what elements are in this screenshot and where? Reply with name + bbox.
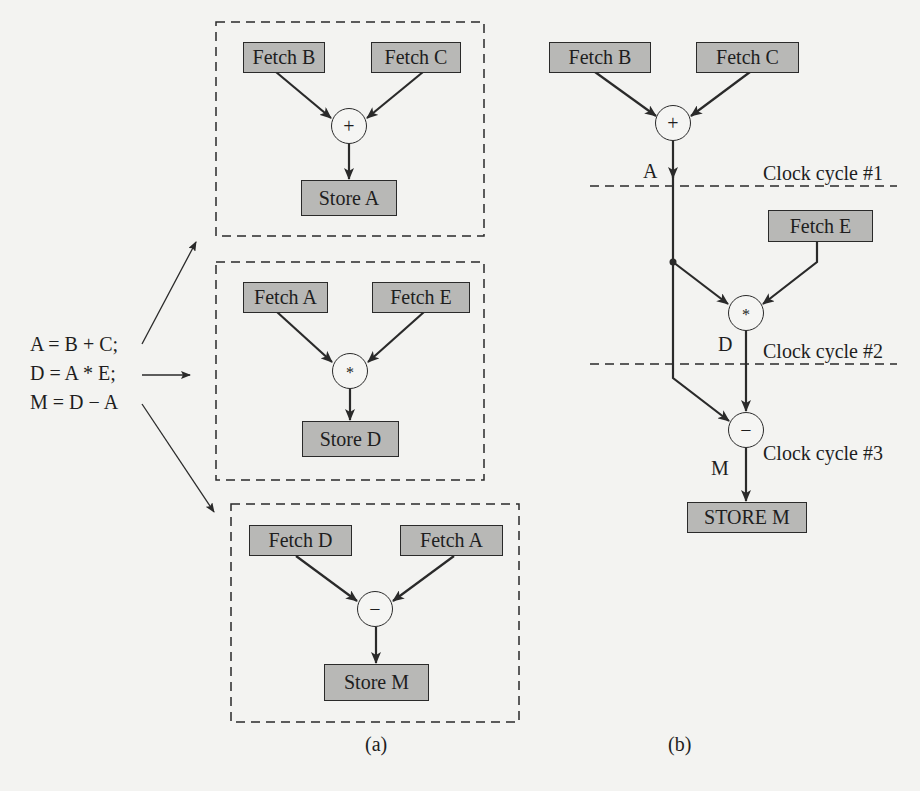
- add-operator: +: [655, 105, 691, 141]
- fetch-e-box: Fetch E: [768, 210, 873, 242]
- equation-1: A = B + C;: [30, 330, 118, 358]
- multiply-operator: *: [728, 295, 764, 331]
- signal-d-label: D: [718, 333, 732, 356]
- fetch-d-box: Fetch D: [249, 525, 352, 556]
- clock-cycle-3-label: Clock cycle #3: [763, 442, 883, 465]
- subtract-operator: −: [357, 591, 393, 627]
- equation-3: M = D − A: [30, 388, 118, 416]
- fetch-a-box: Fetch A: [400, 525, 503, 556]
- connector-layer: [0, 0, 920, 791]
- fetch-b-box: Fetch B: [549, 42, 651, 73]
- dataflow-figure: A = B + C; D = A * E; M = D − A Fetch B …: [0, 0, 920, 791]
- store-d-box: Store D: [302, 421, 399, 457]
- store-m-box: STORE M: [687, 502, 807, 533]
- equation-2: D = A * E;: [30, 359, 116, 387]
- multiply-operator: *: [332, 353, 368, 389]
- fetch-e-box: Fetch E: [372, 282, 470, 313]
- fetch-c-box: Fetch C: [371, 42, 461, 73]
- subtract-operator: −: [728, 412, 764, 448]
- caption-a: (a): [365, 733, 387, 756]
- signal-m-label: M: [711, 457, 729, 480]
- store-m-box: Store M: [324, 664, 429, 701]
- fetch-b-box: Fetch B: [243, 42, 325, 73]
- store-a-box: Store A: [301, 180, 397, 216]
- add-operator: +: [331, 108, 367, 144]
- clock-cycle-1-label: Clock cycle #1: [763, 162, 883, 185]
- clock-cycle-2-label: Clock cycle #2: [763, 340, 883, 363]
- caption-b: (b): [668, 733, 691, 756]
- fetch-c-box: Fetch C: [696, 42, 799, 73]
- fetch-a-box: Fetch A: [243, 282, 328, 313]
- signal-a-label: A: [643, 160, 657, 183]
